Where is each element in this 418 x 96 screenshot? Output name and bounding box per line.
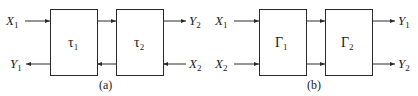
port-x2-label: X2 [188, 56, 201, 73]
port-x2-label-b: X2 [214, 56, 227, 73]
port-y1-label: Y1 [10, 56, 22, 73]
caption-a: (a) [99, 78, 112, 92]
port-x1-label: X1 [5, 13, 18, 30]
diagram-b: Γ1 Γ2 X1 X2 Y1 Y2 (b) [214, 10, 410, 93]
two-port-diagrams: τ1 τ2 X1 Y1 Y2 X2 (a) Γ1 Γ2 X1 X2 [0, 0, 418, 96]
caption-b: (b) [307, 78, 321, 92]
diagram-a: τ1 τ2 X1 Y1 Y2 X2 (a) [5, 10, 201, 93]
port-y1-label-b: Y1 [398, 13, 410, 30]
port-x1-label-b: X1 [214, 13, 227, 30]
port-y2-label: Y2 [189, 13, 201, 30]
port-y2-label-b: Y2 [398, 56, 410, 73]
